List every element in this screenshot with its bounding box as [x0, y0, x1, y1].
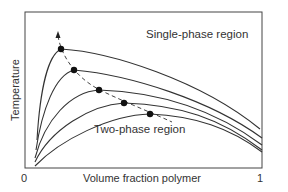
y-axis-label: Temperature: [9, 55, 21, 125]
critical-point-locus: [58, 36, 172, 122]
binodal-curve-2: [36, 70, 262, 150]
two-phase-label: Two-phase region: [94, 123, 185, 135]
x-tick-1: 1: [257, 172, 263, 184]
arrow-up-icon: [56, 31, 61, 38]
binodal-curve-5: [35, 114, 262, 166]
binodal-curves: [35, 49, 262, 166]
x-axis-label: Volume fraction polymer: [83, 172, 201, 184]
single-phase-label: Single-phase region: [146, 28, 248, 40]
x-tick-0: 0: [21, 172, 27, 184]
